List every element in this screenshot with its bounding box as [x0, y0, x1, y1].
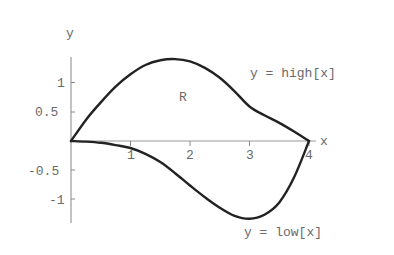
- region-between-curves-plot: 1 2 3 4 1 0.5 -0.5 -1 y x y = high[x] y …: [0, 0, 394, 255]
- y-ticks: 1 0.5 -0.5 -1: [28, 76, 75, 208]
- x-tick-2: 2: [186, 148, 194, 163]
- low-curve-label: y = low[x]: [244, 225, 322, 240]
- y-tick-0.5: 0.5: [35, 105, 58, 120]
- y-tick-1: 1: [57, 76, 65, 91]
- high-curve-label: y = high[x]: [250, 66, 336, 81]
- y-tick-neg0.5: -0.5: [28, 164, 59, 179]
- y-tick-neg1: -1: [49, 193, 65, 208]
- region-label: R: [179, 90, 187, 105]
- x-axis-label: x: [320, 134, 328, 149]
- y-axis-label: y: [66, 26, 74, 41]
- x-tick-3: 3: [246, 148, 254, 163]
